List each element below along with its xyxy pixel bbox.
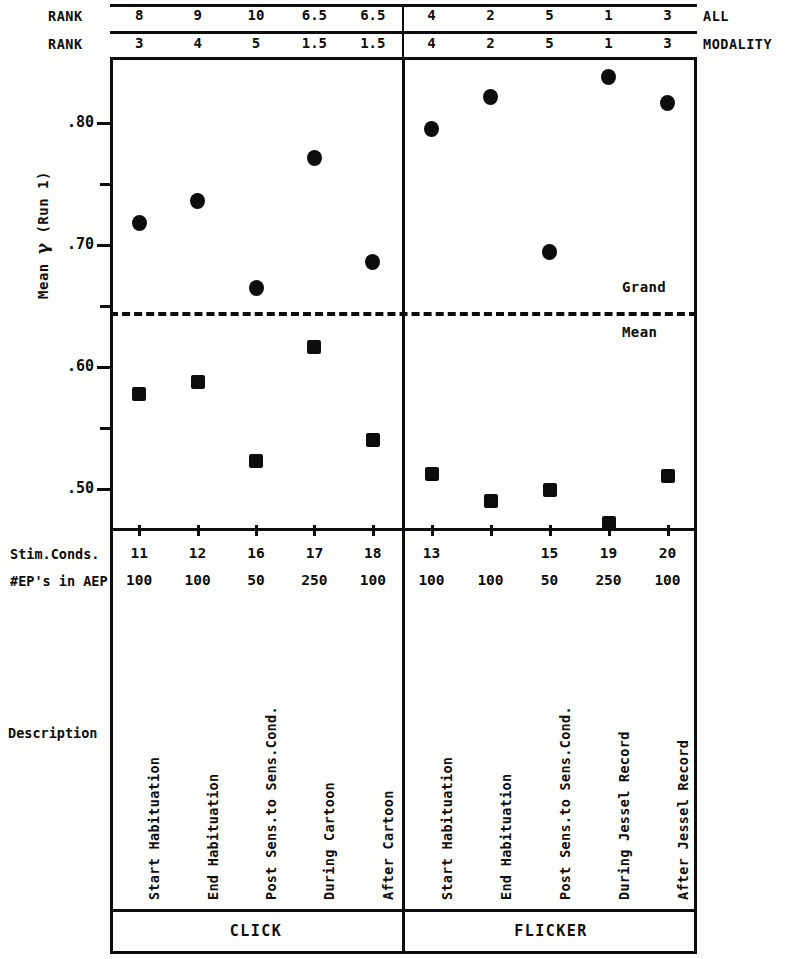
eps-value-0: 100 — [115, 572, 163, 588]
stim-cond-value-8: 19 — [585, 545, 633, 561]
x-tick-9 — [667, 525, 670, 536]
y-axis-title: Mean γ (Run 1) — [32, 155, 52, 315]
rank-modality-value-9: 3 — [645, 35, 691, 51]
rank-all-value-3: 6.5 — [291, 7, 337, 23]
stim-cond-value-5: 13 — [408, 545, 456, 561]
rank-row-label-all: RANK — [48, 8, 83, 24]
y-tick-label-2: .60 — [48, 357, 94, 375]
description-8: During Jessel Record — [616, 731, 632, 900]
rank-all-value-5: 4 — [409, 7, 455, 23]
rank-header-divider — [402, 4, 404, 57]
y-axis-title-suffix: (Run 1) — [35, 171, 51, 242]
data-point-square-click-0 — [132, 387, 146, 401]
rank-all-value-0: 8 — [116, 7, 162, 23]
stim-cond-value-7: 15 — [526, 545, 574, 561]
description-1: End Habituation — [205, 774, 221, 900]
x-tick-7 — [549, 525, 552, 536]
stim-cond-value-2: 16 — [232, 545, 280, 561]
data-point-square-click-4 — [366, 433, 380, 447]
eps-value-3: 250 — [290, 572, 338, 588]
rank-all-value-8: 1 — [586, 7, 632, 23]
x-tick-8 — [608, 525, 611, 536]
grand-mean-label-bottom: Mean — [622, 324, 657, 340]
data-point-square-flicker-0 — [425, 467, 439, 481]
stim-cond-value-1: 12 — [174, 545, 222, 561]
rank-all-value-7: 5 — [527, 7, 573, 23]
rank-all-value-9: 3 — [645, 7, 691, 23]
description-0: Start Habituation — [146, 757, 162, 900]
data-point-square-flicker-2 — [543, 483, 557, 497]
stim-cond-value-9: 20 — [644, 545, 692, 561]
row-label-stim-conds: Stim.Conds. — [10, 546, 99, 562]
rank-all-value-4: 6.5 — [350, 7, 396, 23]
grand-mean-label-top: Grand — [622, 279, 666, 295]
data-point-square-click-2 — [249, 454, 263, 468]
modality-label-flicker: FLICKER — [405, 922, 697, 940]
y-tick-label-3: .50 — [48, 479, 94, 497]
description-6: End Habituation — [498, 774, 514, 900]
description-9: After Jessel Record — [675, 740, 691, 900]
y-tick-label-1: .70 — [48, 235, 94, 253]
table-rule-middle — [402, 531, 405, 912]
x-tick-0 — [138, 525, 141, 536]
x-tick-4 — [372, 525, 375, 536]
y-tick-label-0: .80 — [48, 113, 94, 131]
eps-value-5: 100 — [408, 572, 456, 588]
eps-value-4: 100 — [349, 572, 397, 588]
rank-modality-value-8: 1 — [586, 35, 632, 51]
y-tick-major-2 — [97, 366, 110, 369]
y-axis-title-prefix: Mean — [35, 254, 51, 299]
data-point-circle-flicker-3 — [601, 69, 616, 85]
rank-row-label-modality: RANK — [48, 36, 83, 52]
eps-value-2: 50 — [232, 572, 280, 588]
y-tick-minor-2 — [100, 427, 110, 430]
data-point-circle-flicker-0 — [424, 121, 439, 137]
description-2: Post Sens.to Sens.Cond. — [263, 706, 279, 900]
rank-all-value-6: 2 — [468, 7, 514, 23]
data-point-square-click-1 — [191, 375, 205, 389]
y-tick-minor-0 — [100, 183, 110, 186]
eps-value-7: 50 — [526, 572, 574, 588]
stim-cond-value-4: 18 — [349, 545, 397, 561]
x-tick-5 — [431, 525, 434, 536]
rank-modality-value-2: 5 — [233, 35, 279, 51]
modality-label-click: CLICK — [110, 922, 402, 940]
rank-modality-value-1: 4 — [175, 35, 221, 51]
description-4: After Cartoon — [380, 790, 396, 900]
x-tick-1 — [197, 525, 200, 536]
rank-legend-modality: MODALITY — [703, 36, 772, 52]
description-7: Post Sens.to Sens.Cond. — [557, 706, 573, 900]
y-tick-major-3 — [97, 488, 110, 491]
eps-value-9: 100 — [644, 572, 692, 588]
data-point-circle-click-0 — [132, 215, 147, 231]
rank-modality-value-0: 3 — [116, 35, 162, 51]
rank-modality-value-3: 1.5 — [291, 35, 337, 51]
table-rule-left — [110, 531, 113, 912]
y-tick-major-0 — [97, 122, 110, 125]
rank-modality-value-7: 5 — [527, 35, 573, 51]
stim-cond-value-3: 17 — [290, 545, 338, 561]
y-tick-major-1 — [97, 244, 110, 247]
data-point-square-flicker-1 — [484, 494, 498, 508]
x-tick-3 — [313, 525, 316, 536]
row-label-description: Description — [8, 725, 97, 741]
data-point-square-flicker-4 — [661, 469, 675, 483]
rank-all-value-1: 9 — [175, 7, 221, 23]
data-point-circle-click-2 — [249, 280, 264, 296]
x-tick-2 — [255, 525, 258, 536]
gamma-icon: γ — [32, 243, 52, 255]
description-5: Start Habituation — [439, 757, 455, 900]
stim-cond-value-0: 11 — [115, 545, 163, 561]
x-tick-6 — [490, 525, 493, 536]
rank-legend-all: ALL — [703, 8, 729, 24]
eps-value-1: 100 — [174, 572, 222, 588]
eps-value-6: 100 — [467, 572, 515, 588]
eps-value-8: 250 — [585, 572, 633, 588]
description-3: During Cartoon — [321, 782, 337, 900]
rank-header: RANK RANK ALL MODALITY 89106.56.542513 3… — [0, 0, 789, 57]
rank-all-value-2: 10 — [233, 7, 279, 23]
data-point-square-click-3 — [307, 340, 321, 354]
rank-modality-value-4: 1.5 — [350, 35, 396, 51]
rank-modality-value-5: 4 — [409, 35, 455, 51]
y-tick-minor-1 — [100, 305, 110, 308]
